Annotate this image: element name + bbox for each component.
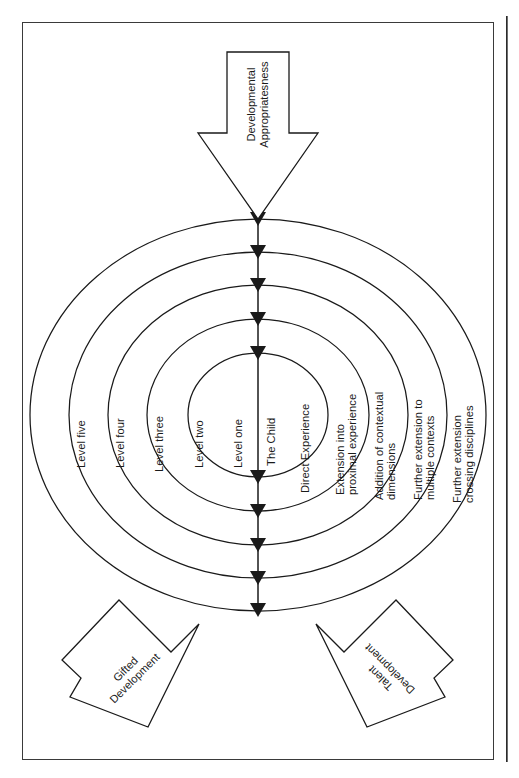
page-canvas: Level five Level four Level three Level …: [0, 0, 519, 778]
ring-desc-crossing-disciplines: Further extension crossing disciplines: [451, 405, 476, 503]
ring-label-level-five: Level five: [76, 420, 88, 468]
arrow-label-developmental-appropriateness-line2: Appropriatesness: [258, 55, 271, 155]
ring-desc-multiple-contexts-line2: multiple contexts: [424, 399, 436, 500]
ring-desc-extension-proximal: Extension into proximal experience: [334, 394, 359, 495]
ring-desc-multiple-contexts-line1: Further extension to: [412, 399, 424, 500]
ring-desc-extension-proximal-line2: proximal experience: [346, 394, 358, 495]
ring-label-level-one: Level one: [233, 419, 245, 468]
ring-desc-direct-experience: Direct Experience: [300, 404, 312, 493]
arrow-label-developmental-appropriateness-line1: Developmental: [245, 55, 258, 155]
ring-desc-crossing-disciplines-line2: crossing disciplines: [463, 405, 475, 503]
axis-label-the-child: The Child: [266, 418, 278, 466]
ring-desc-contextual-dimensions-line2: dimensions: [385, 392, 397, 500]
ring-desc-crossing-disciplines-line1: Further extension: [451, 405, 463, 503]
ring-label-level-four: Level four: [115, 418, 127, 468]
ring-desc-multiple-contexts: Further extension to multiple contexts: [412, 399, 437, 500]
ring-desc-contextual-dimensions-line1: Addition of contextual: [373, 392, 385, 500]
ring-label-level-two: Level two: [194, 420, 206, 468]
arrow-label-developmental-appropriateness: Developmental Appropriatesness: [245, 55, 270, 155]
ring-desc-contextual-dimensions: Addition of contextual dimensions: [373, 392, 398, 500]
ring-label-level-three: Level three: [154, 416, 166, 472]
ring-desc-extension-proximal-line1: Extension into: [334, 394, 346, 495]
